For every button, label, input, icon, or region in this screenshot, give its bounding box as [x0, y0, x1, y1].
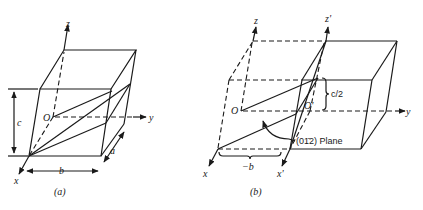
label-c: c — [17, 117, 22, 128]
label-half-c: c/2 — [331, 89, 343, 99]
caption-a: (a) — [54, 186, 66, 198]
caption-b: (b) — [250, 186, 262, 198]
label-z-axis: z — [253, 15, 258, 26]
label-x-axis: x — [202, 168, 208, 179]
label-y-axis: y — [405, 106, 411, 117]
label-z-prime-axis: z' — [324, 13, 332, 24]
label-b: b — [59, 165, 64, 176]
panel-a-unit-cell: z y x O c b a (a) — [8, 18, 154, 198]
label-x-prime-axis: x' — [276, 168, 284, 179]
label-origin: O — [231, 105, 238, 116]
label-origin-prime: O' — [304, 100, 314, 111]
label-minus-b: −b — [242, 161, 254, 172]
label-z-axis: z — [65, 18, 70, 29]
label-y-axis: y — [148, 112, 154, 123]
panel-b-shifted-cell: z z' y x x' O O' c/2 −b (01̄2) Plane (b) — [202, 13, 411, 198]
label-plane: (01̄2) Plane — [296, 136, 343, 146]
crystal-lattice-diagram: z y x O c b a (a) — [0, 0, 423, 210]
label-a: a — [110, 145, 115, 156]
label-x-axis: x — [13, 175, 19, 186]
label-origin: O — [43, 112, 50, 123]
